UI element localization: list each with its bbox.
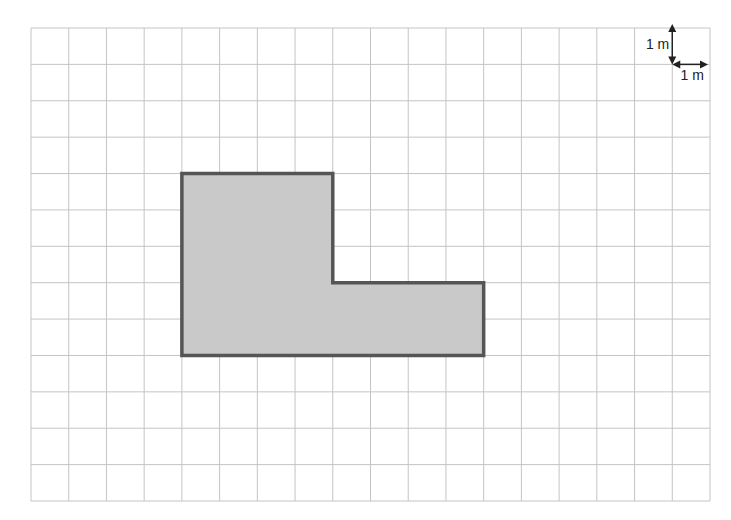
grid <box>31 28 710 501</box>
l-shaped-figure <box>182 174 484 356</box>
scale-indicator: 1 m 1 m <box>646 24 708 83</box>
grid-diagram: 1 m 1 m <box>0 0 731 520</box>
horizontal-scale-label: 1 m <box>680 67 703 83</box>
vertical-scale-label: 1 m <box>646 36 669 52</box>
